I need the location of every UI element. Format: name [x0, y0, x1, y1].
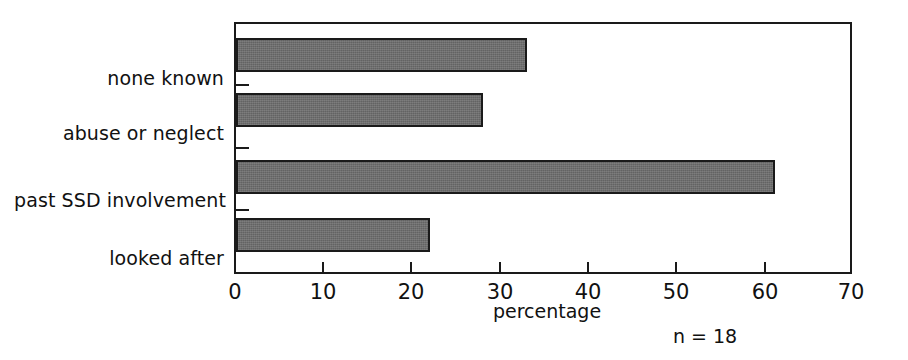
category-axis-labels: none known abuse or neglect past SSD inv…: [12, 22, 224, 274]
category-tick-3: [236, 209, 249, 211]
bar-none-known: [236, 38, 527, 72]
bar-looked-after: [236, 218, 430, 252]
category-label-past-ssd-involvement: past SSD involvement: [14, 189, 224, 211]
bar-abuse-or-neglect: [236, 93, 483, 127]
x-axis-title: percentage: [472, 300, 622, 322]
category-tick-2: [236, 147, 249, 149]
x-tick-mark-60: [764, 262, 766, 274]
category-tick-1: [236, 84, 249, 86]
x-tick-mark-40: [587, 262, 589, 274]
bar-chart-figure: none known abuse or neglect past SSD inv…: [0, 0, 908, 360]
x-tick-mark-0: [234, 262, 236, 274]
bar-past-ssd-involvement: [236, 160, 775, 194]
x-tick-label-70: 70: [838, 280, 865, 304]
x-tick-mark-20: [410, 262, 412, 274]
x-tick-label-20: 20: [398, 280, 425, 304]
x-tick-mark-30: [499, 262, 501, 274]
x-tick-label-0: 0: [228, 280, 241, 304]
plot-area: [234, 22, 852, 274]
x-tick-mark-50: [675, 262, 677, 274]
x-tick-mark-70: [850, 262, 852, 274]
category-label-abuse-or-neglect: abuse or neglect: [14, 122, 224, 144]
x-tick-label-60: 60: [752, 280, 779, 304]
x-tick-mark-10: [322, 262, 324, 274]
sample-size-annotation: n = 18: [640, 325, 770, 347]
category-label-none-known: none known: [14, 67, 224, 89]
x-tick-label-10: 10: [310, 280, 337, 304]
x-tick-label-50: 50: [663, 280, 690, 304]
category-label-looked-after: looked after: [14, 247, 224, 269]
